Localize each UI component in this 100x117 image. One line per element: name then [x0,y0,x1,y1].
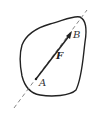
point-a-dot [35,78,37,80]
diagram-canvas [0,0,100,117]
point-b-label: B [73,30,80,40]
force-label: F [56,51,63,61]
force-arrow-shaft [36,36,69,79]
rigid-body-diagram: A B F [0,0,100,117]
point-a-label: A [39,78,46,88]
